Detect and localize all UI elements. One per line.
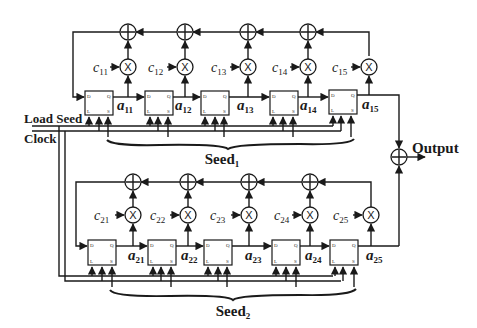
svg-text:L: L <box>147 109 150 114</box>
coef-c15: c15 <box>332 60 348 77</box>
svg-text:D: D <box>87 94 91 99</box>
svg-text:X: X <box>304 61 312 73</box>
svg-text:L: L <box>272 109 275 114</box>
multiplier-11: X <box>120 59 136 75</box>
reg-a23: a23 <box>245 247 262 265</box>
svg-text:D: D <box>203 94 207 99</box>
svg-text:D: D <box>272 94 276 99</box>
coef-c25: c25 <box>333 208 349 225</box>
svg-text:D: D <box>90 243 94 248</box>
svg-text:X: X <box>124 61 132 73</box>
svg-text:X: X <box>365 61 373 73</box>
svg-text:L: L <box>150 259 153 264</box>
lfsr-diagram: X X X X X c11 c12 c13 c14 c15 DQ LS <box>0 0 477 328</box>
svg-text:X: X <box>129 209 137 221</box>
svg-text:L: L <box>332 259 335 264</box>
adder-24 <box>302 174 318 190</box>
svg-text:X: X <box>245 209 253 221</box>
flipflop-21: DQ LS <box>88 240 116 265</box>
svg-text:Q: Q <box>223 94 227 99</box>
reg-a22: a22 <box>181 247 198 265</box>
flipflop-25: DQ LS <box>330 240 358 265</box>
svg-text:S: S <box>223 109 226 114</box>
reg-a15: a15 <box>362 96 379 114</box>
adder-13 <box>240 24 256 40</box>
reg-a13: a13 <box>237 97 254 115</box>
multiplier-15: X <box>361 59 377 75</box>
multiplier-25: X <box>363 207 379 223</box>
multiplier-12: X <box>177 59 193 75</box>
svg-text:S: S <box>110 259 113 264</box>
svg-text:L: L <box>331 108 334 113</box>
svg-text:L: L <box>203 109 206 114</box>
seed2-label: Seed2 <box>216 303 251 321</box>
reg-a21: a21 <box>128 247 145 265</box>
seed1-brace <box>107 139 354 149</box>
multiplier-24: X <box>302 207 318 223</box>
svg-text:Q: Q <box>294 243 298 248</box>
svg-text:X: X <box>184 209 192 221</box>
svg-text:X: X <box>181 61 189 73</box>
svg-text:S: S <box>170 259 173 264</box>
multiplier-21: X <box>125 207 141 223</box>
svg-text:Q: Q <box>292 94 296 99</box>
reg-a12: a12 <box>175 97 192 115</box>
svg-text:D: D <box>331 93 335 98</box>
flipflop-12: DQ LS <box>145 91 173 115</box>
svg-text:S: S <box>167 109 170 114</box>
adder-22 <box>180 174 196 190</box>
svg-text:D: D <box>332 243 336 248</box>
coef-c14: c14 <box>272 60 288 77</box>
flipflop-15: DQ LS <box>329 90 357 114</box>
multiplier-14: X <box>300 59 316 75</box>
output-label: Output <box>412 140 459 156</box>
flipflop-24: DQ LS <box>272 240 300 265</box>
coef-c13: c13 <box>211 60 227 77</box>
multiplier-23: X <box>241 207 257 223</box>
flipflop-23: DQ LS <box>204 240 232 265</box>
svg-text:Q: Q <box>170 243 174 248</box>
svg-text:Q: Q <box>352 243 356 248</box>
clock-label: Clock <box>24 131 57 146</box>
reg-a24: a24 <box>305 247 322 265</box>
reg-a11: a11 <box>117 97 134 115</box>
svg-text:D: D <box>147 94 151 99</box>
adder-14 <box>300 24 316 40</box>
svg-text:D: D <box>274 243 278 248</box>
svg-text:Q: Q <box>107 94 111 99</box>
coef-c22: c22 <box>150 208 165 225</box>
svg-text:Q: Q <box>226 243 230 248</box>
adder-23 <box>241 174 257 190</box>
svg-text:Q: Q <box>351 93 355 98</box>
svg-text:L: L <box>90 259 93 264</box>
svg-text:L: L <box>206 259 209 264</box>
adder-21 <box>125 174 141 190</box>
multiplier-13: X <box>240 59 256 75</box>
multiplier-22: X <box>180 207 196 223</box>
svg-text:X: X <box>367 209 375 221</box>
svg-text:L: L <box>274 259 277 264</box>
reg-a14: a14 <box>300 97 317 115</box>
output-xor: Output <box>391 140 459 246</box>
reg-a25: a25 <box>366 247 383 265</box>
svg-text:S: S <box>352 259 355 264</box>
lfsr-2: X X X X X c21 c22 c23 c24 c25 DQ LS DQ <box>76 174 399 321</box>
svg-text:Q: Q <box>167 94 171 99</box>
svg-text:S: S <box>294 259 297 264</box>
flipflop-13: DQ LS <box>201 91 229 115</box>
adder-11 <box>120 24 136 40</box>
svg-text:D: D <box>150 243 154 248</box>
seed1-label: Seed1 <box>205 151 240 169</box>
seed2-brace <box>110 289 356 300</box>
svg-text:X: X <box>306 209 314 221</box>
lfsr-1: X X X X X c11 c12 c13 c14 c15 DQ LS <box>73 24 399 169</box>
flipflop-11: DQ LS <box>85 91 113 115</box>
flipflop-22: DQ LS <box>148 240 176 265</box>
svg-text:Q: Q <box>110 243 114 248</box>
coef-c23: c23 <box>210 208 226 225</box>
coef-c11: c11 <box>93 60 108 77</box>
svg-text:L: L <box>87 109 90 114</box>
ff-inputs-bottom <box>92 267 354 287</box>
flipflop-14: DQ LS <box>270 91 298 115</box>
svg-text:S: S <box>226 259 229 264</box>
